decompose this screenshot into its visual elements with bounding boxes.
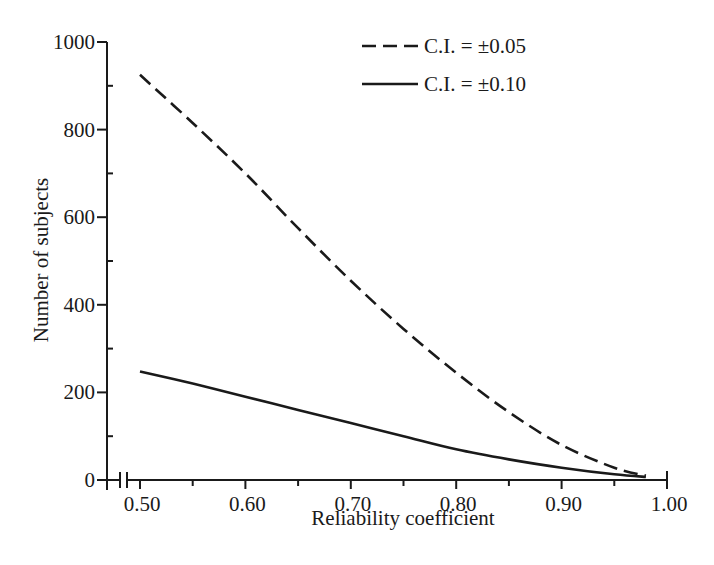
series-layer xyxy=(140,75,646,477)
series-line-ci-010 xyxy=(140,371,646,477)
y-tick-label: 600 xyxy=(64,205,96,229)
legend-label-ci-005: C.I. = ±0.05 xyxy=(424,34,526,58)
series-line-ci-005 xyxy=(140,75,646,476)
y-tick-label: 0 xyxy=(85,468,96,492)
x-tick-label: 0.50 xyxy=(124,492,161,516)
x-tick-label: 1.00 xyxy=(651,492,688,516)
y-tick-label: 1000 xyxy=(53,30,95,54)
legend-label-ci-010: C.I. = ±0.10 xyxy=(424,72,526,96)
y-tick-label: 400 xyxy=(64,293,96,317)
y-tick-label: 200 xyxy=(64,380,96,404)
y-axis-title: Number of subjects xyxy=(29,178,53,342)
legend: C.I. = ±0.05 C.I. = ±0.10 xyxy=(362,34,526,96)
y-tick-label: 800 xyxy=(64,118,96,142)
chart: 020040060080010000.500.600.700.800.901.0… xyxy=(0,0,714,565)
axes: 020040060080010000.500.600.700.800.901.0… xyxy=(53,30,687,516)
x-tick-label: 0.90 xyxy=(545,492,582,516)
x-axis-title: Reliability coefficient xyxy=(311,506,494,530)
x-tick-label: 0.60 xyxy=(229,492,266,516)
